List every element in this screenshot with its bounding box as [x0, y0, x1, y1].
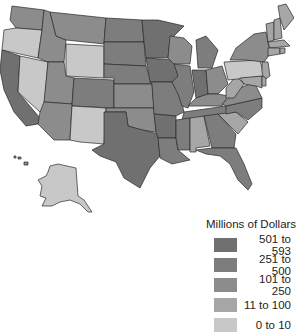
- legend-item: 101 to 250: [204, 275, 294, 295]
- state-fl[interactable]: [196, 148, 252, 190]
- state-co[interactable]: [72, 78, 114, 108]
- state-wi[interactable]: [168, 36, 192, 64]
- legend-swatch: [214, 258, 237, 272]
- state-sd[interactable]: [104, 42, 146, 66]
- state-nm[interactable]: [70, 106, 106, 144]
- state-mi[interactable]: [196, 36, 218, 68]
- state-in[interactable]: [192, 70, 208, 98]
- legend-label: 101 to 250: [237, 273, 294, 297]
- state-wa[interactable]: [10, 6, 44, 30]
- legend-item: 11 to 100: [204, 295, 294, 315]
- state-ri[interactable]: [280, 48, 285, 54]
- state-nd[interactable]: [104, 18, 144, 42]
- state-ar[interactable]: [154, 114, 176, 138]
- legend-label: 11 to 100: [237, 299, 294, 311]
- legend-swatch: [214, 278, 237, 292]
- state-az[interactable]: [38, 102, 72, 140]
- state-ks[interactable]: [114, 84, 154, 108]
- state-hi[interactable]: [14, 156, 28, 165]
- legend-item: 501 to 593: [204, 235, 294, 255]
- state-ak[interactable]: [38, 164, 92, 212]
- legend-swatch: [214, 318, 237, 332]
- state-oh[interactable]: [206, 66, 228, 94]
- legend-swatch: [214, 298, 237, 312]
- legend-label: 0 to 10: [237, 319, 294, 331]
- state-ct[interactable]: [268, 48, 280, 56]
- legend-swatch: [214, 238, 237, 252]
- state-de[interactable]: [262, 76, 266, 86]
- legend-item: 0 to 10: [204, 315, 294, 335]
- map-legend: Millions of Dollars 501 to 593 251 to 50…: [204, 218, 294, 335]
- legend-item: 251 to 500: [204, 255, 294, 275]
- state-ny[interactable]: [230, 32, 270, 62]
- state-ms[interactable]: [176, 118, 190, 150]
- state-wy[interactable]: [66, 44, 104, 78]
- legend-title: Millions of Dollars: [206, 218, 294, 230]
